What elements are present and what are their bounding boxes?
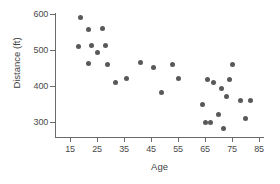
- y-axis-title: Distance (ft): [12, 18, 22, 108]
- x-axis-tick-label: 35: [113, 145, 135, 154]
- x-axis-tick-label: 65: [194, 145, 216, 154]
- data-point: [248, 98, 253, 103]
- data-point: [138, 60, 143, 65]
- data-point: [176, 76, 181, 81]
- data-point: [113, 80, 118, 85]
- scatter-plot-figure: 300400500600 1525354555657585 Age Distan…: [0, 0, 280, 184]
- x-axis-tick: [178, 137, 179, 142]
- data-point: [221, 126, 226, 131]
- data-point: [86, 27, 91, 32]
- data-point: [89, 43, 94, 48]
- data-point: [224, 94, 229, 99]
- y-axis-tick: [50, 86, 55, 87]
- plot-area: 300400500600 1525354555657585 Age Distan…: [0, 0, 280, 184]
- data-point: [100, 26, 105, 31]
- data-point: [219, 86, 224, 91]
- x-axis-tick-label: 45: [140, 145, 162, 154]
- y-axis-tick-label: 400: [22, 82, 48, 91]
- x-axis-tick-label: 25: [86, 145, 108, 154]
- data-point: [103, 43, 108, 48]
- data-point: [159, 90, 164, 95]
- x-axis-tick-label: 55: [167, 145, 189, 154]
- x-axis-tick-label: 85: [248, 145, 270, 154]
- y-axis-tick: [50, 14, 55, 15]
- data-point: [105, 62, 110, 67]
- x-axis-tick: [259, 137, 260, 142]
- y-axis-tick-label: 600: [22, 10, 48, 19]
- x-axis-tick: [151, 137, 152, 142]
- data-point: [203, 120, 208, 125]
- y-axis-tick: [50, 50, 55, 51]
- data-point: [86, 61, 91, 66]
- data-point: [243, 116, 248, 121]
- data-point: [205, 77, 210, 82]
- x-axis-tick: [97, 137, 98, 142]
- data-point: [95, 50, 100, 55]
- data-point: [238, 98, 243, 103]
- y-axis-tick: [50, 122, 55, 123]
- x-axis-tick-label: 15: [59, 145, 81, 154]
- x-axis-tick: [205, 137, 206, 142]
- x-axis-tick: [232, 137, 233, 142]
- y-axis-tick-label: 500: [22, 46, 48, 55]
- data-point: [216, 112, 221, 117]
- data-point: [230, 62, 235, 67]
- data-point: [208, 120, 213, 125]
- data-point: [200, 102, 205, 107]
- x-axis-tick: [70, 137, 71, 142]
- data-point: [124, 76, 129, 81]
- data-point: [211, 80, 216, 85]
- x-axis-tick-label: 75: [221, 145, 243, 154]
- x-axis-title: Age: [55, 162, 264, 172]
- data-point: [78, 15, 83, 20]
- y-axis-tick-label: 300: [22, 118, 48, 127]
- data-point: [76, 44, 81, 49]
- data-point: [170, 62, 175, 67]
- data-point: [227, 77, 232, 82]
- x-axis-tick: [124, 137, 125, 142]
- y-axis-line: [55, 13, 56, 137]
- data-point: [151, 65, 156, 70]
